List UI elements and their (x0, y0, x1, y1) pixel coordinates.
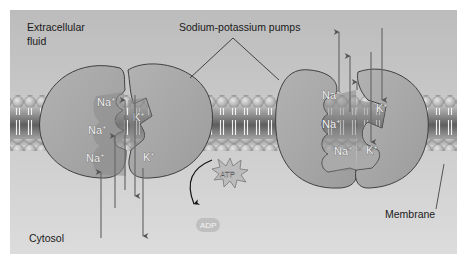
extracellular-fluid-label-line1: Extracellular (27, 21, 85, 33)
extracellular-fluid-label-line2: fluid (27, 35, 46, 47)
atp-label: ATP (220, 170, 235, 179)
right-pump-channel (322, 90, 356, 172)
sodium-potassium-pumps-label: Sodium-potassium pumps (179, 21, 300, 33)
adp-label: ADP (200, 221, 216, 230)
cytosol-label: Cytosol (29, 232, 64, 244)
sodium-potassium-pump-diagram: Na+ Na+ Na+ K+ K+ Na+ Na+ Na+ K+ K+ (0, 0, 468, 262)
membrane-label: Membrane (385, 208, 435, 220)
